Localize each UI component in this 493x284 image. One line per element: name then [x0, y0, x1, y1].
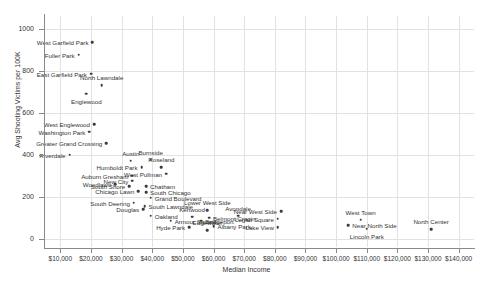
x-gridline [397, 16, 398, 247]
data-point-label: West Town [346, 209, 376, 216]
plot-area: West Garfield ParkFuller ParkEast Garfie… [45, 16, 474, 247]
x-gridline [91, 16, 92, 247]
data-point-label: Roseland [148, 156, 174, 163]
data-point-label: Douglas [116, 206, 139, 213]
x-axis-title: Median Income [0, 266, 493, 273]
data-point[interactable] [169, 219, 172, 222]
x-axis-tick-label: $110,000 [353, 255, 380, 262]
x-gridline [428, 16, 429, 247]
y-axis-tick [39, 155, 44, 156]
y-axis-tick [39, 29, 44, 30]
data-point-label: Lincoln Park [350, 233, 384, 240]
x-axis-tick [91, 249, 92, 253]
data-point[interactable] [165, 172, 168, 175]
y-axis-tick-label: 400 [22, 151, 34, 159]
y-axis-tick [39, 113, 44, 114]
data-point[interactable] [145, 185, 148, 188]
data-point-label: West Englewood [44, 121, 90, 128]
data-point-label: West Pullman [124, 170, 162, 177]
y-axis-tick [39, 71, 44, 72]
x-axis-tick [60, 249, 61, 253]
data-point[interactable] [88, 130, 91, 133]
data-point-label: Lake View [245, 224, 273, 231]
data-point-label: Kenwood [179, 206, 205, 213]
x-axis-tick [428, 249, 429, 253]
x-axis-tick [336, 249, 337, 253]
x-axis-tick-label: $100,000 [323, 255, 350, 262]
x-gridline [459, 16, 460, 247]
x-gridline [152, 16, 153, 247]
x-axis-tick [367, 249, 368, 253]
data-point-label: North Lawndale [80, 74, 123, 81]
data-point-label: Fuller Park [45, 51, 75, 58]
data-point[interactable] [137, 190, 140, 193]
x-gridline [214, 16, 215, 247]
y-axis-tick [39, 239, 44, 240]
x-axis-tick-label: $120,000 [384, 255, 411, 262]
data-point[interactable] [140, 166, 143, 169]
y-axis-tick [39, 197, 44, 198]
x-axis-tick-label: $60,000 [202, 255, 226, 262]
x-axis-tick-label: $30,000 [110, 255, 134, 262]
x-axis-tick [122, 249, 123, 253]
x-axis-line [44, 248, 475, 249]
data-point[interactable] [145, 191, 148, 194]
data-point[interactable] [100, 84, 103, 87]
data-point-label: Greater Grand Crossing [36, 140, 102, 147]
x-axis-tick [459, 249, 460, 253]
data-point[interactable] [149, 196, 152, 199]
data-point-label: Chicago Lawn [95, 188, 134, 195]
y-gridline [45, 113, 474, 114]
x-axis-tick-label: $50,000 [171, 255, 195, 262]
data-point[interactable] [365, 227, 368, 230]
data-point[interactable] [430, 228, 433, 231]
data-point[interactable] [160, 166, 163, 169]
x-axis-tick-label: $90,000 [294, 255, 318, 262]
x-axis-tick [305, 249, 306, 253]
x-axis-tick [214, 249, 215, 253]
scatter-chart: West Garfield ParkFuller ParkEast Garfie… [0, 0, 493, 284]
data-point-label: Austin [122, 150, 139, 157]
y-axis-tick-label: 200 [22, 193, 34, 201]
data-point[interactable] [130, 160, 133, 163]
data-point[interactable] [131, 174, 134, 177]
y-axis-line [44, 14, 45, 249]
x-axis-tick [275, 249, 276, 253]
x-gridline [336, 16, 337, 247]
data-point[interactable] [188, 226, 191, 229]
y-gridline [45, 29, 474, 30]
data-point[interactable] [105, 142, 108, 145]
y-gridline [45, 239, 474, 240]
data-point[interactable] [91, 41, 94, 44]
x-axis-tick-label: $20,000 [79, 255, 103, 262]
data-point[interactable] [149, 214, 152, 217]
data-point[interactable] [68, 153, 71, 156]
data-point-label: Washington Park [39, 128, 86, 135]
y-gridline [45, 197, 474, 198]
x-axis-tick [152, 249, 153, 253]
data-point[interactable] [142, 208, 145, 211]
data-point[interactable] [206, 229, 209, 232]
y-axis-tick-label: 0 [30, 235, 34, 243]
data-point[interactable] [93, 123, 96, 126]
y-axis-title: Avg Shooting Victims per 100K [14, 25, 21, 175]
data-point[interactable] [277, 226, 280, 229]
x-axis-tick [244, 249, 245, 253]
data-point[interactable] [277, 217, 280, 220]
x-axis-tick-label: $40,000 [141, 255, 165, 262]
data-point[interactable] [347, 224, 350, 227]
data-point[interactable] [206, 209, 209, 212]
data-point[interactable] [133, 202, 136, 205]
data-point-label: North Center [413, 218, 448, 225]
data-point[interactable] [280, 210, 283, 213]
data-point[interactable] [131, 180, 134, 183]
y-axis-tick-label: 600 [22, 109, 34, 117]
data-point[interactable] [85, 92, 88, 95]
data-point[interactable] [77, 54, 80, 57]
y-axis-tick-label: 800 [22, 67, 34, 75]
data-point-label: Edgewater [193, 219, 223, 226]
x-axis-tick-label: $70,000 [232, 255, 256, 262]
data-point-label: Englewood [71, 98, 102, 105]
y-axis-tick-label: 1000 [18, 25, 34, 33]
x-axis-tick-label: $10,000 [49, 255, 73, 262]
